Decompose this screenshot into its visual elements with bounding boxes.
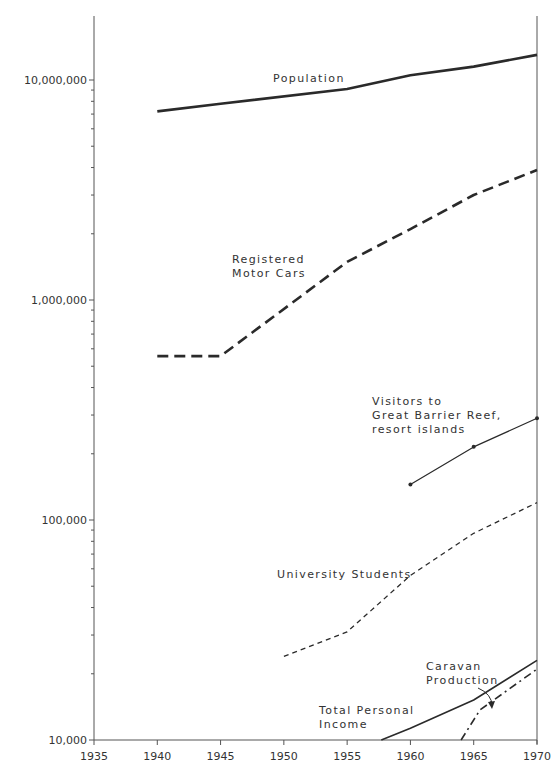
series-label: Caravan bbox=[426, 660, 482, 673]
series-label: Visitors to bbox=[372, 395, 442, 408]
series-line-registered-motor-cars bbox=[157, 170, 537, 356]
x-tick-label: 1955 bbox=[333, 750, 361, 763]
x-tick-label: 1960 bbox=[396, 750, 424, 763]
y-tick-label: 10,000 bbox=[49, 734, 88, 747]
series-labels: PopulationRegisteredMotor CarsVisitors t… bbox=[232, 72, 502, 731]
series-label: Registered bbox=[232, 253, 305, 266]
x-tick-label: 1965 bbox=[460, 750, 488, 763]
series-label: Great Barrier Reef, bbox=[372, 409, 502, 422]
series-label: Total Personal bbox=[318, 704, 415, 717]
y-tick-label: 100,000 bbox=[42, 514, 88, 527]
y-tick-label: 10,000,000 bbox=[24, 74, 87, 87]
x-tick-label: 1970 bbox=[523, 750, 551, 763]
series-label: Income bbox=[319, 718, 368, 731]
series-label: Population bbox=[273, 72, 345, 85]
data-point-marker bbox=[408, 482, 412, 486]
x-tick-label: 1945 bbox=[207, 750, 235, 763]
y-tick-label: 1,000,000 bbox=[31, 294, 87, 307]
x-tick-label: 1950 bbox=[270, 750, 298, 763]
series-label: Production bbox=[426, 674, 499, 687]
series-label: resort islands bbox=[372, 423, 466, 436]
series-label: Motor Cars bbox=[232, 267, 306, 280]
series-line-population bbox=[157, 55, 537, 112]
arrowhead-icon bbox=[488, 701, 495, 709]
x-tick-label: 1940 bbox=[143, 750, 171, 763]
data-point-marker bbox=[535, 416, 539, 420]
data-point-marker bbox=[472, 445, 476, 449]
series-layer bbox=[157, 55, 539, 740]
log-line-chart: 10,000100,0001,000,00010,000,00019351940… bbox=[0, 0, 555, 774]
series-label: University Students bbox=[277, 568, 412, 581]
x-tick-label: 1935 bbox=[80, 750, 108, 763]
axes: 10,000100,0001,000,00010,000,00019351940… bbox=[24, 16, 551, 763]
